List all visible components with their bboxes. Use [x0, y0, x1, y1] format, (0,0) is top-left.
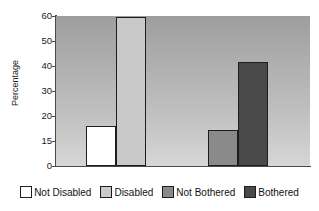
legend-item[interactable]: Bothered [244, 186, 299, 198]
legend-item-label: Disabled [114, 187, 153, 198]
y-axis-tick-mark [52, 91, 56, 92]
legend-swatch-icon [100, 186, 112, 198]
plot-area [56, 16, 310, 166]
y-axis-tick-label: 0 [28, 161, 52, 170]
legend-item-label: Bothered [258, 187, 299, 198]
y-axis-tick-label: 15 [28, 136, 52, 145]
chart-legend: Not DisabledDisabledNot BotheredBothered [0, 182, 319, 202]
legend-item-label: Not Disabled [34, 187, 91, 198]
bar [116, 17, 146, 166]
y-axis-tick-label: 20 [28, 111, 52, 120]
legend-item[interactable]: Not Bothered [162, 186, 235, 198]
y-axis-tick-mark [52, 66, 56, 67]
y-axis-tick-label: 50 [28, 36, 52, 45]
bar-chart-figure: Percentage 6050403020150 Not DisabledDis… [0, 0, 319, 211]
bar [208, 130, 238, 166]
y-axis-title: Percentage [10, 43, 20, 123]
y-axis-tick-labels: 6050403020150 [26, 0, 52, 211]
legend-swatch-icon [244, 186, 256, 198]
bar [86, 126, 116, 166]
y-axis-tick-mark [52, 41, 56, 42]
y-axis-tick-mark [52, 141, 56, 142]
y-axis-tick-mark [52, 116, 56, 117]
legend-item-label: Not Bothered [176, 187, 235, 198]
y-axis-tick-label: 30 [28, 86, 52, 95]
legend-swatch-icon [162, 186, 174, 198]
y-axis-tick-mark [52, 166, 56, 167]
y-axis-tick-label: 40 [28, 61, 52, 70]
legend-item[interactable]: Disabled [100, 186, 153, 198]
y-axis-tick-mark [52, 16, 56, 17]
y-axis-tick-label: 60 [28, 11, 52, 20]
bar [238, 62, 268, 166]
legend-swatch-icon [20, 186, 32, 198]
legend-item[interactable]: Not Disabled [20, 186, 91, 198]
